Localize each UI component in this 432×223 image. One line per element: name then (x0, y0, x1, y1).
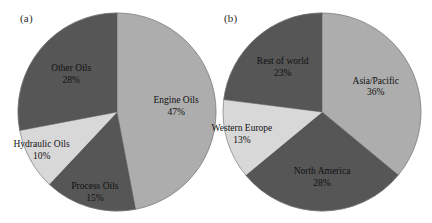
pie-slice (117, 13, 216, 209)
chart-panel-a: (a) Engine Oils 47% Process Oils 15% Hyd… (0, 0, 216, 223)
pie-b-svg (222, 12, 422, 212)
pie-a-svg (17, 12, 217, 212)
chart-panel-b: (b) Asia/Pacific 36% North America 28% W… (216, 0, 432, 223)
pie-slice (18, 13, 117, 131)
pie-slice (224, 13, 322, 112)
pie-chart-figure: (a) Engine Oils 47% Process Oils 15% Hyd… (0, 0, 432, 223)
pie-a: Engine Oils 47% Process Oils 15% Hydraul… (17, 12, 217, 212)
pie-b: Asia/Pacific 36% North America 28% Weste… (222, 12, 422, 212)
